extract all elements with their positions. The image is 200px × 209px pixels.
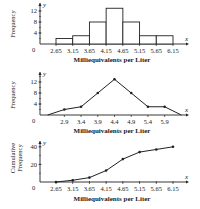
y-axis-arrow-icon [38, 72, 41, 75]
histogram-bar [56, 39, 73, 45]
x-tick-label: 5.65 [151, 185, 162, 192]
x-tick-label: 5.9 [161, 118, 169, 125]
y-axis-title: Frequency [9, 10, 16, 38]
data-point [63, 108, 66, 111]
x-axis-variable: x [184, 35, 189, 43]
y-axis-arrow-icon [38, 141, 41, 144]
x-tick-label: 5.15 [134, 47, 145, 54]
x-axis-title: Milliequivalents per Liter [74, 195, 151, 203]
ogive-chart: yx020402.653.153.654.154.655.155.656.15M… [9, 139, 189, 203]
origin-label: 0 [32, 184, 35, 191]
polygon-line [48, 79, 182, 115]
x-tick-label: 5.65 [151, 47, 162, 54]
x-tick-label: 2.65 [50, 185, 61, 192]
data-point [155, 148, 158, 151]
x-axis-variable: x [184, 173, 189, 181]
histogram-bar [156, 36, 173, 44]
y-axis-title: Frequency [9, 81, 16, 109]
x-tick-label: 6.15 [167, 47, 178, 54]
origin-label: 0 [32, 46, 35, 53]
data-point [80, 105, 83, 108]
x-tick-label: 4.65 [117, 185, 128, 192]
x-tick-label: 4.15 [100, 47, 111, 54]
x-tick-label: 3.15 [67, 185, 78, 192]
y-tick-label: 12 [31, 7, 38, 14]
x-tick-label: 5.4 [144, 118, 153, 125]
x-tick-label: 2.9 [60, 118, 68, 125]
data-point [96, 92, 99, 95]
histogram-bar [140, 36, 157, 44]
data-point [138, 151, 141, 154]
chart-figure: yx048122.653.153.654.154.655.155.656.15M… [0, 0, 200, 209]
x-axis-title: Milliequivalents per Liter [74, 56, 151, 64]
y-tick-label: 4 [34, 29, 38, 36]
histogram-bar [89, 22, 106, 44]
origin-label: 0 [32, 117, 35, 124]
frequency-polygon-chart: yx048122.93.43.94.44.95.45.9Milliequival… [9, 70, 189, 135]
data-point [172, 146, 175, 149]
x-tick-label: 3.15 [67, 47, 78, 54]
data-point [122, 158, 125, 161]
x-tick-label: 4.4 [110, 118, 119, 125]
histogram-bar [106, 8, 123, 44]
y-tick-label: 12 [31, 78, 38, 85]
y-axis-variable: y [42, 70, 47, 78]
x-axis-title: Milliequivalents per Liter [74, 127, 151, 135]
x-tick-label: 4.15 [100, 185, 111, 192]
y-tick-label: 4 [34, 100, 38, 107]
data-point [130, 92, 133, 95]
x-tick-label: 3.65 [84, 185, 95, 192]
y-tick-label: 20 [31, 161, 38, 168]
y-tick-label: 40 [31, 143, 38, 150]
y-axis-variable: y [42, 139, 47, 147]
histogram-bar [123, 22, 140, 44]
y-axis-variable: y [42, 1, 47, 9]
data-point [105, 169, 108, 172]
data-point [147, 105, 150, 108]
histogram-bar [73, 36, 90, 44]
data-point [88, 176, 91, 179]
x-tick-label: 3.9 [94, 118, 102, 125]
y-axis-title: CumulativeFrequency [9, 143, 23, 173]
data-point [163, 105, 166, 108]
x-axis-variable: x [184, 106, 189, 114]
x-tick-label: 6.15 [167, 185, 178, 192]
x-tick-label: 5.15 [134, 185, 145, 192]
histogram-chart: yx048122.653.153.654.154.655.155.656.15M… [9, 1, 189, 64]
ogive-line [56, 147, 173, 182]
y-tick-label: 8 [34, 18, 37, 25]
x-tick-label: 2.65 [50, 47, 61, 54]
data-point [113, 78, 116, 81]
x-tick-label: 3.65 [84, 47, 95, 54]
x-tick-label: 4.65 [117, 47, 128, 54]
x-tick-label: 4.9 [127, 118, 135, 125]
x-tick-label: 3.4 [77, 118, 86, 125]
y-tick-label: 8 [34, 89, 37, 96]
